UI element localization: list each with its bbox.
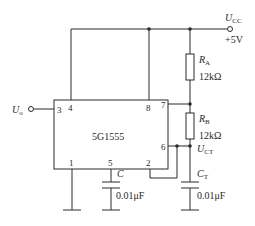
supply-terminal — [228, 27, 233, 32]
junction-dot — [188, 102, 192, 106]
pin-7-label: 7 — [161, 100, 166, 110]
pin-8-label: 8 — [146, 103, 151, 113]
rb-label: RB — [198, 113, 210, 126]
pin-4-label: 4 — [68, 103, 73, 113]
pin-5-label: 5 — [108, 158, 113, 168]
pin-3-label: 3 — [57, 105, 62, 115]
supply-voltage: +5V — [225, 34, 244, 45]
pin-2-label: 2 — [146, 158, 151, 168]
junction-dot — [147, 27, 151, 31]
resistor-ra — [186, 54, 194, 80]
ra-value: 12kΩ — [199, 71, 221, 82]
ct-value: 0.01μF — [197, 190, 226, 201]
ra-label: RA — [198, 54, 210, 67]
output-terminal — [29, 107, 34, 112]
c-label: C — [117, 168, 124, 179]
output-label: Uo — [12, 104, 23, 117]
chip-label: 5G1555 — [92, 131, 124, 142]
pin-1-label: 1 — [69, 158, 74, 168]
c-value: 0.01μF — [116, 190, 145, 201]
supply-label: UCC — [225, 12, 242, 25]
rb-value: 12kΩ — [199, 130, 221, 141]
ct-label: CT — [197, 168, 209, 181]
circuit-schematic: 5G1555 4 3 8 7 6 1 5 2 UCC +5V RA 12kΩ R… — [0, 0, 255, 226]
junction-dot — [188, 144, 192, 148]
resistor-rb — [186, 113, 194, 139]
uct-label: UCT — [197, 143, 214, 156]
pin-6-label: 6 — [161, 142, 166, 152]
